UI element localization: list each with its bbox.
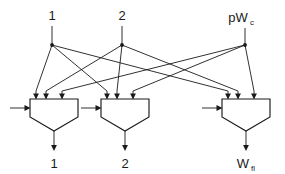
wire-src3-mux2: [133, 45, 245, 91]
mux-output-arrows-group: [51, 131, 249, 151]
output-arrowhead-mux1: [51, 145, 57, 151]
mux-3-output-label: W: [237, 156, 250, 171]
source-1-group: [36, 26, 228, 91]
mux-1-body[interactable]: [30, 99, 78, 131]
output-arrowhead-mux3: [243, 145, 249, 151]
diagram-canvas: 1 2 pW c 1 2 W fl: [0, 0, 285, 174]
mux-3-output-label-subscript: fl: [251, 164, 255, 173]
source-3-label: pW: [228, 10, 248, 25]
wire-src3-mux3: [245, 45, 254, 91]
wire-src1-mux1: [36, 45, 52, 91]
wire-src2-mux2: [117, 45, 122, 91]
mux-bodies-group: [30, 99, 270, 131]
mux-2-body[interactable]: [101, 99, 149, 131]
mux-2-output-label: 2: [121, 156, 128, 171]
source-1-label: 1: [48, 8, 55, 23]
mux-3-body[interactable]: [222, 99, 270, 131]
mux-1-output-label: 1: [50, 156, 57, 171]
source-2-group: [46, 26, 238, 91]
wire-src3-mux1: [62, 45, 245, 91]
source-3-label-subscript: c: [250, 18, 254, 27]
mux-enable-arrows-group: [10, 105, 223, 111]
wire-src2-mux1: [46, 45, 122, 91]
output-arrowhead-mux2: [122, 145, 128, 151]
labels-group: 1 2 pW c 1 2 W fl: [48, 8, 255, 173]
schematic-svg: 1 2 pW c 1 2 W fl: [0, 0, 285, 174]
source-2-label: 2: [118, 8, 125, 23]
mux-input-arrows-group: [33, 91, 257, 100]
